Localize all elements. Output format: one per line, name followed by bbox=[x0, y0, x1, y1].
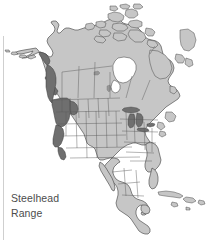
newfoundland-maritimes bbox=[157, 112, 176, 137]
steelhead-range-figure: .land { fill: #c6c6c6; stroke: #3d3d3d; … bbox=[0, 0, 210, 247]
legend-line-2: Range bbox=[11, 206, 91, 221]
caribbean-islands bbox=[158, 191, 205, 210]
legend-line-1: Steelhead bbox=[11, 191, 91, 206]
legend: Steelhead Range bbox=[11, 191, 91, 220]
